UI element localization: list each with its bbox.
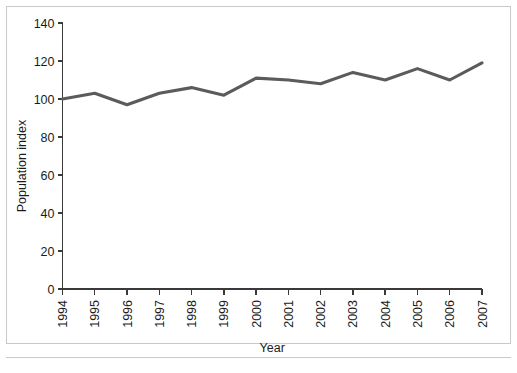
y-axis-tick-label: 20 [41,245,55,259]
line-chart: 020406080100120140 199419951996199719981… [0,0,517,373]
y-axis-title: Population index [15,119,29,212]
x-axis-tick-label: 1998 [185,300,199,328]
x-axis-tick-label: 1997 [153,300,167,328]
x-axis-tick-label: 1999 [217,300,231,328]
y-axis-tick-label: 120 [34,55,55,69]
y-axis-tick-label: 40 [41,207,55,221]
x-axis-tick-label: 1994 [56,300,70,328]
y-axis-tick-label: 100 [34,93,55,107]
y-axis-tick-label: 0 [48,283,55,297]
series-line-population-index [63,63,483,105]
chart-figure: 020406080100120140 199419951996199719981… [0,0,517,373]
y-axis: 020406080100120140 [34,17,63,297]
x-axis-tick-label: 2007 [476,300,490,328]
y-axis-tick-label: 80 [41,131,55,145]
x-axis-tick-label: 2001 [282,300,296,328]
y-axis-tick-label: 60 [41,169,55,183]
x-axis-tick-label: 2005 [411,300,425,328]
x-axis-title: Year [260,341,285,355]
x-axis: 1994199519961997199819992000200120022003… [56,289,490,328]
x-axis-tick-label: 2000 [250,300,264,328]
data-series-population-index [63,63,483,105]
x-axis-tick-label: 2006 [443,300,457,328]
x-axis-tick-label: 2002 [314,300,328,328]
x-axis-tick-label: 2003 [346,300,360,328]
x-axis-tick-label: 2004 [379,300,393,328]
x-axis-tick-label: 1996 [121,300,135,328]
y-axis-tick-label: 140 [34,17,55,31]
x-axis-tick-label: 1995 [88,300,102,328]
